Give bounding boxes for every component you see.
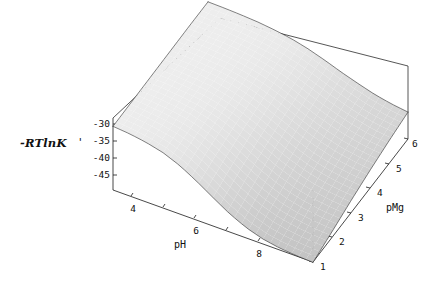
- x-tick-mark: [131, 193, 133, 196]
- x-tick-mark: [194, 215, 196, 218]
- y-axis-title: pMg: [386, 202, 404, 213]
- y-tick-mark: [366, 187, 370, 188]
- y-tick-label: 1: [320, 261, 326, 272]
- y-tick-mark: [404, 138, 408, 139]
- figure-canvas: -30 -35 -40 -45 -RTlnK ' 4 6 8 pH: [0, 0, 424, 288]
- z-axis-title-group: -RTlnK ': [20, 136, 84, 150]
- surface-plot-3d: -30 -35 -40 -45 -RTlnK ' 4 6 8 pH: [0, 0, 424, 288]
- x-tick-mark-minor: [226, 227, 228, 230]
- z-axis-title-prime: ': [77, 136, 84, 149]
- y-tick-mark: [347, 212, 351, 213]
- y-tick-label: 3: [358, 212, 364, 223]
- x-tick-mark: [258, 238, 260, 241]
- z-tick-label: -35: [93, 135, 110, 146]
- y-tick-label: 2: [339, 236, 345, 247]
- y-tick-label: 4: [377, 187, 383, 198]
- y-tick-label: 5: [396, 163, 402, 174]
- x-tick-label: 6: [193, 225, 199, 236]
- z-tick-label: -45: [93, 169, 110, 180]
- surface-mesh: [113, 2, 408, 263]
- x-tick-label: 8: [256, 248, 262, 259]
- z-tick-label: -40: [93, 152, 110, 163]
- y-tick-mark: [385, 163, 389, 164]
- z-axis-title: -RTlnK: [20, 136, 67, 150]
- y-tick-label: 6: [412, 138, 418, 149]
- z-tick-label: -30: [93, 118, 110, 129]
- x-tick-label: 4: [130, 203, 136, 214]
- x-tick-mark-minor: [163, 204, 165, 207]
- x-axis-title: pH: [174, 239, 186, 250]
